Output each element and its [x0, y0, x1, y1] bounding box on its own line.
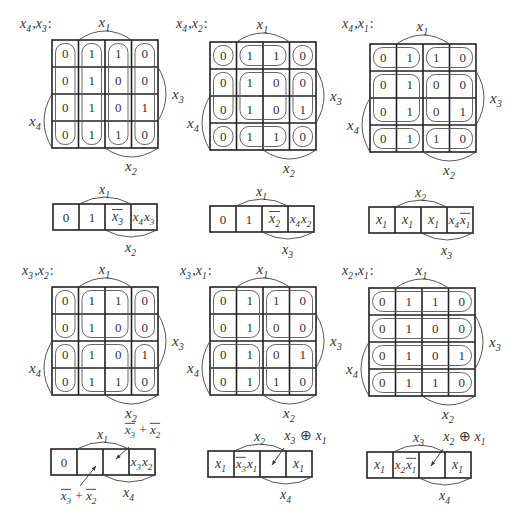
kmap-cell: 1: [89, 127, 96, 142]
svg-text:x3 x2: x3 x2: [130, 454, 154, 472]
strip-cell: x1: [292, 456, 305, 474]
strip-bottom-label: x3: [281, 242, 294, 260]
strip-cell: x2: [268, 211, 281, 229]
annotation-label: x3 + x2: [124, 422, 161, 440]
svg-text:x2: x2: [282, 160, 296, 179]
kmap-cell: 0: [379, 294, 386, 309]
kmap-cell: 0: [433, 77, 440, 92]
strip-cell: x3 x1: [235, 456, 259, 474]
svg-text:x2 ,x1 :: x2 ,x1 :: [341, 263, 374, 281]
strip-cell: 0: [220, 212, 227, 227]
axis-label-left: x4: [28, 113, 42, 132]
kmap-cell: 1: [406, 375, 413, 390]
svg-text:x1: x1: [214, 456, 227, 474]
kmap-cell: 1: [89, 46, 96, 61]
kmap-cell: 0: [380, 77, 387, 92]
svg-text:x2 x1: x2 x1: [394, 457, 418, 475]
kmap-cell: 1: [433, 50, 440, 65]
residual-strip-5: x1 x3 x1 x1 x2 x4 x3 ⊕ x1: [208, 428, 328, 505]
kmap-cell: 1: [247, 320, 254, 335]
kmap-cell: 1: [89, 320, 96, 335]
svg-text:x4: x4: [122, 485, 135, 503]
kmap-cell: 0: [142, 374, 149, 389]
kmap-panel-6: x2 ,x1 :0110010001010110x1 x3 x4 x2: [341, 262, 502, 425]
kmap-panel-2: x4 ,x2 :0110010001010110x1 x3 x4 x2: [175, 16, 343, 179]
axis-label-left: x4: [186, 115, 200, 134]
svg-text:x2: x2: [442, 162, 456, 181]
svg-text:x3: x3: [171, 333, 185, 352]
kmap-cell: 0: [62, 46, 69, 61]
strip-cell: x2 x1: [394, 457, 418, 475]
kmap-cell: 0: [273, 320, 280, 335]
svg-text:x1: x1: [97, 261, 111, 280]
kmap-cell: 0: [62, 320, 69, 335]
svg-text:x4 x2: x4 x2: [289, 211, 313, 229]
kmap-cell: 0: [273, 347, 280, 362]
kmap-panel-4: x3 ,x2 :0110010001010110x1 x3 x4 x2: [21, 261, 185, 424]
axis-label-left: x4: [28, 360, 42, 379]
svg-text:x4: x4: [345, 361, 359, 380]
svg-text:x1: x1: [373, 457, 386, 475]
svg-text:x4 x3: x4 x3: [132, 209, 156, 227]
svg-text:x4 ,x1 :: x4 ,x1 :: [341, 16, 374, 34]
svg-text:x2: x2: [268, 211, 281, 229]
axis-label-right: x3: [488, 334, 502, 353]
kmap-cell: 1: [247, 129, 254, 144]
strip-cell: x3 x2: [130, 454, 154, 472]
kmap-cell: 0: [142, 293, 149, 308]
strip-cell: x3: [111, 209, 124, 227]
svg-text:x3 ⊕ x1: x3 ⊕ x1: [283, 428, 327, 446]
svg-text:x3: x3: [111, 209, 124, 227]
axis-label-bottom: x2: [441, 406, 455, 425]
kmap-cell: 0: [300, 320, 307, 335]
residual-strip-2: 01x2 x4 x2 x1 x3: [210, 184, 314, 260]
x4-arc: [44, 94, 52, 148]
axis-label-right: x3: [171, 333, 185, 352]
axis-label-top: x1: [97, 261, 111, 280]
kmap-cell: 0: [380, 50, 387, 65]
kmap-title: x4 ,x2 :: [175, 16, 208, 34]
residual-strip-6: x1 x2 x1 x1 x3 x4 x2 ⊕ x1: [367, 429, 487, 506]
kmap-cell: 0: [142, 46, 149, 61]
x3-arc: [158, 67, 166, 121]
residual-strip-3: x1 x1 x1 x4 x1 x2 x3: [369, 185, 473, 261]
kmap-title: x2 ,x1 :: [341, 263, 374, 281]
kmap-cell: 1: [247, 48, 254, 63]
strip-bottom-label: x4: [438, 488, 451, 506]
axis-label-top: x1: [414, 262, 428, 281]
kmap-cell: 1: [432, 294, 439, 309]
strip-cell: x1: [451, 457, 464, 475]
axis-label-bottom: x2: [282, 160, 296, 179]
kmap-panel-1: x4 ,x3 :0110010001010110x1 x3 x4 x2: [19, 14, 185, 177]
kmap-cell: 1: [247, 102, 254, 117]
kmap-cell: 1: [300, 102, 307, 117]
svg-text:x2 ⊕ x1: x2 ⊕ x1: [442, 429, 486, 447]
svg-text:x4 x1: x4 x1: [448, 212, 472, 230]
kmap-cell: 1: [432, 375, 439, 390]
svg-text:x3 ,x1 :: x3 ,x1 :: [179, 263, 212, 281]
kmap-cell: 0: [273, 102, 280, 117]
x2-arc: [105, 395, 158, 404]
kmap-cell: 1: [115, 127, 122, 142]
svg-text:x3: x3: [171, 86, 185, 105]
kmap-cell: 1: [115, 374, 122, 389]
kmap-cell: 1: [273, 129, 280, 144]
axis-label-left: x4: [346, 117, 360, 136]
svg-text:x4: x4: [186, 360, 200, 379]
strip-bottom-arc: [421, 233, 473, 240]
kmap-cell: 0: [115, 73, 122, 88]
kmap-cell: 0: [62, 347, 69, 362]
kmap-cell: 1: [89, 73, 96, 88]
kmap-cell: 0: [379, 348, 386, 363]
x2-arc: [263, 395, 316, 404]
svg-text:x1: x1: [97, 14, 111, 33]
svg-text:x4 ,x3 :: x4 ,x3 :: [19, 16, 52, 34]
x4-arc: [202, 96, 210, 150]
svg-text:x3 + x2: x3 + x2: [60, 488, 97, 506]
strip-cell: x4 x2: [289, 211, 313, 229]
kmap-cell: 1: [115, 293, 122, 308]
kmap-cell: 1: [300, 347, 307, 362]
x2-arc: [263, 150, 316, 159]
strip-cell: x1: [427, 212, 440, 230]
svg-text:x2: x2: [282, 405, 296, 424]
